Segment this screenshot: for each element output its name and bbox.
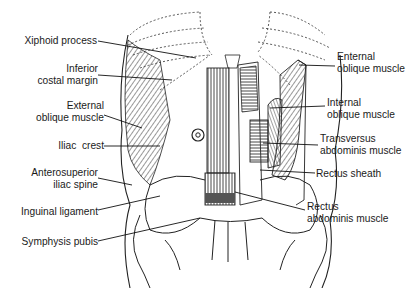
label-external-oblique-left: External oblique muscle	[36, 100, 104, 124]
label-text: Inguinal ligament	[21, 206, 98, 217]
label-text: oblique muscle	[327, 109, 395, 121]
label-text: oblique muscle	[36, 112, 104, 124]
label-text: Xiphoid process	[25, 35, 98, 46]
label-text: Rectus sheath	[316, 168, 381, 179]
label-text: iliac spine	[31, 179, 98, 191]
label-text: abdominis muscle	[307, 213, 389, 225]
label-text: Anterosuperior	[31, 167, 98, 179]
label-iliac-crest: Iliac crest	[58, 140, 104, 152]
label-anterosuperior-iliac-spine: Anterosuperior iliac spine	[31, 167, 98, 191]
label-text: abdominis muscle	[320, 145, 402, 157]
label-inguinal-ligament: Inguinal ligament	[21, 206, 98, 218]
label-text: Enternal	[337, 51, 405, 63]
label-text: costal margin	[37, 75, 98, 87]
label-text: Internal	[327, 97, 395, 109]
transversus-abdominis	[250, 120, 268, 162]
label-transversus-abdominis: Transversus abdominis muscle	[320, 133, 402, 157]
label-xiphoid-process: Xiphoid process	[25, 35, 98, 47]
label-text: Symphysis pubis	[22, 236, 98, 247]
label-inferior-costal-margin: Inferior costal margin	[37, 63, 98, 87]
label-rectus-abdominis: Rectus abdominis muscle	[307, 201, 389, 225]
label-rectus-sheath: Rectus sheath	[316, 168, 381, 180]
label-text: Iliac crest	[58, 140, 104, 151]
umbilicus	[192, 129, 204, 141]
label-external-oblique-right: Enternal oblique muscle	[337, 51, 405, 75]
label-internal-oblique: Internal oblique muscle	[327, 97, 395, 121]
label-text: Transversus	[320, 133, 402, 145]
label-text: External	[36, 100, 104, 112]
label-text: Rectus	[307, 201, 389, 213]
label-text: oblique muscle	[337, 63, 405, 75]
rectus-abdominis-upper	[207, 68, 229, 173]
label-text: Inferior	[37, 63, 98, 75]
label-symphysis-pubis: Symphysis pubis	[22, 236, 98, 248]
